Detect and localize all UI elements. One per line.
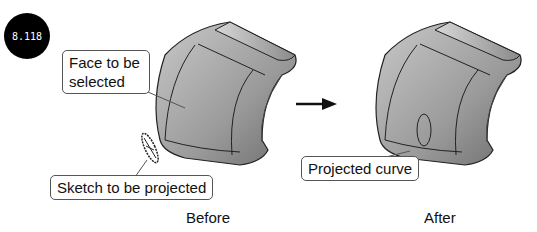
callout-projected-curve: Projected curve [301,156,419,181]
callout-sketch-to-be-projected: Sketch to be projected [50,175,213,200]
figure-number-badge: 8.118 [4,13,50,59]
callout-face-line-1: Face to be [69,53,143,72]
caption-before: Before [186,209,230,226]
callout-face-line-2: selected [69,72,143,91]
right-arrow-icon [296,98,337,110]
caption-after: After [424,209,456,226]
after-part [376,22,521,165]
before-part [156,22,296,165]
callout-face-to-be-selected: Face to be selected [62,50,150,94]
sketch-ellipse [139,131,162,164]
